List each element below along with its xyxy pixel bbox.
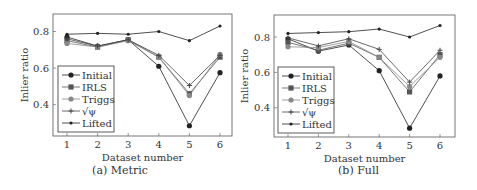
marker-square-icon xyxy=(407,89,412,94)
marker-circle-icon xyxy=(217,70,222,75)
x-tick-label: 4 xyxy=(376,140,382,151)
y-tick-label: 0.8 xyxy=(33,26,49,37)
marker-dot-icon xyxy=(286,32,289,35)
marker-circle-icon xyxy=(377,68,382,73)
marker-dot-icon xyxy=(69,121,72,124)
marker-circle-icon xyxy=(407,126,412,131)
legend-label: Lifted xyxy=(82,118,112,129)
y-tick-label: 0.4 xyxy=(33,99,49,110)
legend-label: Triggs xyxy=(82,94,115,105)
legend-label: √ψ xyxy=(82,106,96,117)
marker-square-icon xyxy=(68,84,73,89)
legend: InitialIRLSTriggs√ψLifted xyxy=(58,66,115,132)
legend-label: √ψ xyxy=(302,107,316,118)
marker-circle-icon xyxy=(68,72,73,77)
marker-circle-icon xyxy=(288,97,293,102)
marker-dot-icon xyxy=(127,33,130,36)
x-tick-label: 3 xyxy=(125,139,131,150)
marker-dot-icon xyxy=(408,35,411,38)
marker-circle-icon xyxy=(64,41,69,46)
x-tick-label: 4 xyxy=(156,139,162,150)
y-tick-label: 0.6 xyxy=(254,67,270,78)
legend: InitialIRLSTriggs√ψLifted xyxy=(278,67,335,133)
chart-metric: 0.40.60.8123456Dataset numberInlier rati… xyxy=(0,0,240,190)
x-tick-label: 1 xyxy=(285,140,291,151)
legend-label: IRLS xyxy=(302,83,327,94)
y-tick-label: 0.6 xyxy=(33,63,49,74)
marker-dot-icon xyxy=(96,32,99,35)
y-tick-label: 0.8 xyxy=(254,32,270,43)
marker-circle-icon xyxy=(377,55,382,60)
marker-circle-icon xyxy=(187,93,192,98)
marker-circle-icon xyxy=(68,96,73,101)
marker-square-icon xyxy=(285,40,290,45)
y-axis-label: Inlier ratio xyxy=(19,48,30,103)
x-axis-label: Dataset number xyxy=(102,152,184,163)
series-lifted xyxy=(286,24,441,39)
chart-metric-plot: 0.40.60.8123456Dataset numberInlier rati… xyxy=(0,0,240,190)
legend-label: IRLS xyxy=(82,82,107,93)
caption-full: (b) Full xyxy=(240,164,477,177)
x-axis-label: Dataset number xyxy=(324,153,406,164)
x-tick-label: 2 xyxy=(315,140,321,151)
chart-full-plot: 0.40.60.8123456Dataset numberInlier rati… xyxy=(240,0,477,190)
x-tick-label: 1 xyxy=(64,139,70,150)
x-tick-label: 2 xyxy=(94,139,100,150)
marker-circle-icon xyxy=(285,44,290,49)
marker-dot-icon xyxy=(157,30,160,33)
x-tick-label: 6 xyxy=(217,139,223,150)
legend-label: Initial xyxy=(302,71,332,82)
x-tick-label: 6 xyxy=(437,140,443,151)
marker-circle-icon xyxy=(437,55,442,60)
marker-dot-icon xyxy=(65,33,68,36)
chart-full: 0.40.60.8123456Dataset numberInlier rati… xyxy=(240,0,477,190)
series-line xyxy=(67,26,220,41)
series-line xyxy=(288,25,440,37)
marker-dot-icon xyxy=(188,39,191,42)
marker-dot-icon xyxy=(289,122,292,125)
legend-label: Lifted xyxy=(302,119,332,130)
x-tick-label: 5 xyxy=(186,139,192,150)
x-tick-label: 3 xyxy=(346,140,352,151)
marker-square-icon xyxy=(288,85,293,90)
marker-circle-icon xyxy=(288,73,293,78)
marker-dot-icon xyxy=(347,30,350,33)
legend-label: Triggs xyxy=(302,95,335,106)
marker-circle-icon xyxy=(187,123,192,128)
marker-dot-icon xyxy=(317,31,320,34)
marker-dot-icon xyxy=(438,24,441,27)
y-tick-label: 0.4 xyxy=(254,102,270,113)
x-tick-label: 5 xyxy=(406,140,412,151)
marker-dot-icon xyxy=(218,24,221,27)
series-lifted xyxy=(65,24,221,42)
y-axis-label: Inlier ratio xyxy=(240,49,250,104)
legend-label: Initial xyxy=(82,70,112,81)
marker-circle-icon xyxy=(156,64,161,69)
marker-circle-icon xyxy=(407,84,412,89)
marker-dot-icon xyxy=(378,27,381,30)
caption-metric: (a) Metric xyxy=(0,164,240,177)
marker-circle-icon xyxy=(437,73,442,78)
